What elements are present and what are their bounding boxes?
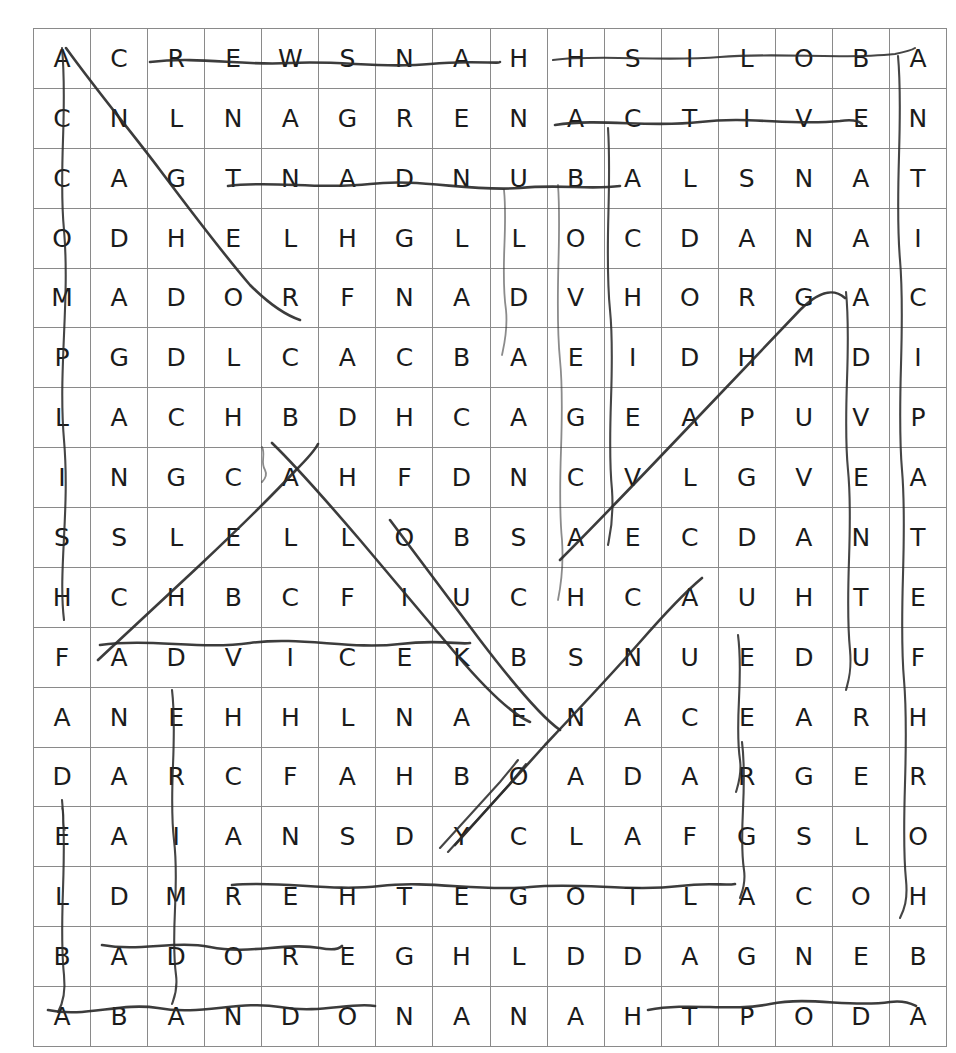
letter-cell[interactable]: G [319, 88, 376, 148]
letter-cell[interactable]: N [262, 148, 319, 208]
letter-cell[interactable]: Y [433, 807, 490, 867]
letter-cell[interactable]: H [34, 567, 91, 627]
letter-cell[interactable]: U [433, 567, 490, 627]
letter-cell[interactable]: A [262, 88, 319, 148]
letter-cell[interactable]: S [547, 627, 604, 687]
letter-cell[interactable]: N [775, 148, 832, 208]
letter-cell[interactable]: C [91, 567, 148, 627]
letter-cell[interactable]: R [148, 747, 205, 807]
letter-cell[interactable]: T [889, 148, 946, 208]
letter-cell[interactable]: D [775, 627, 832, 687]
letter-cell[interactable]: L [34, 867, 91, 927]
letter-cell[interactable]: A [604, 148, 661, 208]
letter-cell[interactable]: A [604, 687, 661, 747]
letter-cell[interactable]: E [319, 927, 376, 987]
letter-cell[interactable]: B [433, 328, 490, 388]
letter-cell[interactable]: N [889, 88, 946, 148]
letter-cell[interactable]: E [205, 208, 262, 268]
letter-cell[interactable]: S [34, 508, 91, 568]
letter-cell[interactable]: A [91, 927, 148, 987]
letter-cell[interactable]: I [889, 208, 946, 268]
letter-cell[interactable]: R [718, 268, 775, 328]
letter-cell[interactable]: N [832, 508, 889, 568]
letter-cell[interactable]: A [718, 208, 775, 268]
letter-cell[interactable]: D [433, 448, 490, 508]
letter-cell[interactable]: T [205, 148, 262, 208]
letter-cell[interactable]: H [775, 567, 832, 627]
letter-cell[interactable]: G [547, 388, 604, 448]
letter-cell[interactable]: A [148, 987, 205, 1047]
letter-cell[interactable]: L [319, 508, 376, 568]
letter-cell[interactable]: A [832, 268, 889, 328]
letter-cell[interactable]: B [433, 508, 490, 568]
letter-cell[interactable]: H [376, 747, 433, 807]
letter-cell[interactable]: S [490, 508, 547, 568]
letter-cell[interactable]: B [205, 567, 262, 627]
letter-cell[interactable]: E [832, 927, 889, 987]
letter-cell[interactable]: C [376, 328, 433, 388]
letter-cell[interactable]: H [205, 687, 262, 747]
letter-cell[interactable]: T [661, 88, 718, 148]
letter-cell[interactable]: D [148, 268, 205, 328]
letter-cell[interactable]: S [604, 29, 661, 89]
letter-cell[interactable]: B [433, 747, 490, 807]
letter-cell[interactable]: N [433, 148, 490, 208]
letter-cell[interactable]: I [604, 328, 661, 388]
letter-cell[interactable]: G [148, 448, 205, 508]
letter-cell[interactable]: T [661, 987, 718, 1047]
letter-cell[interactable]: R [205, 867, 262, 927]
letter-cell[interactable]: R [832, 687, 889, 747]
letter-cell[interactable]: N [376, 987, 433, 1047]
letter-cell[interactable]: V [604, 448, 661, 508]
letter-cell[interactable]: R [889, 747, 946, 807]
letter-cell[interactable]: N [376, 687, 433, 747]
letter-cell[interactable]: H [889, 867, 946, 927]
letter-cell[interactable]: E [604, 388, 661, 448]
letter-cell[interactable]: E [376, 627, 433, 687]
letter-cell[interactable]: V [205, 627, 262, 687]
letter-cell[interactable]: U [490, 148, 547, 208]
letter-cell[interactable]: H [547, 567, 604, 627]
letter-cell[interactable]: O [319, 987, 376, 1047]
letter-cell[interactable]: G [376, 208, 433, 268]
letter-cell[interactable]: C [604, 88, 661, 148]
letter-cell[interactable]: D [91, 867, 148, 927]
letter-cell[interactable]: A [91, 148, 148, 208]
letter-cell[interactable]: E [832, 448, 889, 508]
letter-cell[interactable]: V [832, 388, 889, 448]
letter-cell[interactable]: B [34, 927, 91, 987]
letter-cell[interactable]: T [604, 867, 661, 927]
letter-cell[interactable]: E [832, 747, 889, 807]
letter-cell[interactable]: C [205, 747, 262, 807]
letter-cell[interactable]: H [376, 388, 433, 448]
letter-cell[interactable]: A [547, 747, 604, 807]
letter-cell[interactable]: A [205, 807, 262, 867]
letter-cell[interactable]: H [205, 388, 262, 448]
letter-cell[interactable]: L [661, 448, 718, 508]
letter-cell[interactable]: C [262, 567, 319, 627]
letter-cell[interactable]: A [547, 987, 604, 1047]
letter-cell[interactable]: E [205, 508, 262, 568]
letter-cell[interactable]: A [91, 388, 148, 448]
letter-cell[interactable]: L [262, 508, 319, 568]
letter-cell[interactable]: I [889, 328, 946, 388]
letter-cell[interactable]: F [262, 747, 319, 807]
letter-cell[interactable]: D [148, 328, 205, 388]
letter-cell[interactable]: R [262, 268, 319, 328]
letter-cell[interactable]: D [661, 208, 718, 268]
letter-cell[interactable]: N [490, 987, 547, 1047]
letter-cell[interactable]: A [661, 747, 718, 807]
letter-cell[interactable]: T [376, 867, 433, 927]
letter-cell[interactable]: L [34, 388, 91, 448]
letter-cell[interactable]: A [34, 29, 91, 89]
letter-cell[interactable]: P [718, 388, 775, 448]
letter-cell[interactable]: C [262, 328, 319, 388]
letter-cell[interactable]: S [319, 29, 376, 89]
letter-cell[interactable]: T [832, 567, 889, 627]
letter-cell[interactable]: N [376, 268, 433, 328]
letter-cell[interactable]: L [547, 807, 604, 867]
letter-cell[interactable]: E [604, 508, 661, 568]
letter-cell[interactable]: C [148, 388, 205, 448]
letter-cell[interactable]: I [148, 807, 205, 867]
letter-cell[interactable]: C [889, 268, 946, 328]
